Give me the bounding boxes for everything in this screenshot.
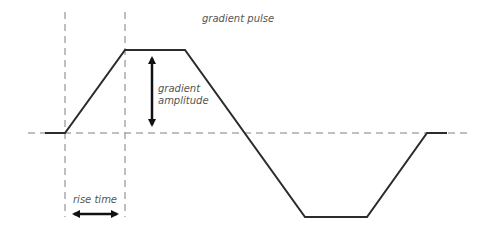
rise-time-label: rise time — [73, 194, 117, 205]
amplitude-label-line2: amplitude — [158, 95, 209, 106]
diagram-title: gradient pulse — [202, 13, 274, 24]
amplitude-label-line1: gradient — [158, 83, 201, 94]
gradient-pulse-diagram: gradient pulse gradient amplitude rise t… — [0, 0, 489, 227]
